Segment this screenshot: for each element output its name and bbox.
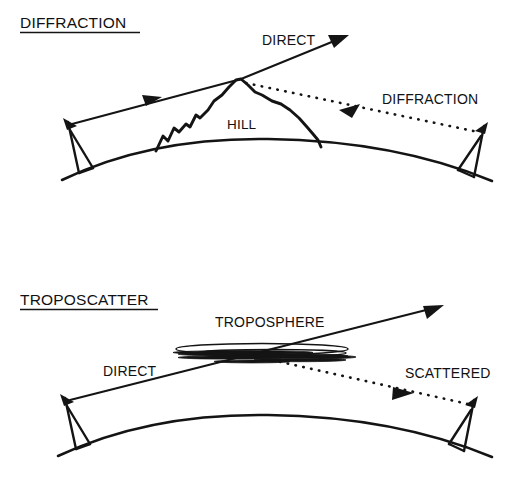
radio-propagation-diagram: DIFFRACTION HILL <box>0 0 509 482</box>
troposphere-layer <box>173 344 356 363</box>
antenna-left-troposcatter <box>60 394 90 449</box>
earth-curve-diffraction <box>62 139 492 181</box>
antenna-left-diffraction <box>63 118 93 173</box>
panel-diffraction: DIFFRACTION HILL <box>20 14 492 181</box>
panel-title-troposcatter: TROPOSCATTER <box>20 291 149 308</box>
troposphere-label: TROPOSPHERE <box>215 314 325 330</box>
direct-ray-diffraction <box>72 35 349 124</box>
earth-curve-troposcatter <box>58 415 492 457</box>
hill-label: HILL <box>227 117 257 132</box>
panel-title-diffraction: DIFFRACTION <box>20 14 126 31</box>
scattered-ray-label: SCATTERED <box>405 365 491 381</box>
direct-ray-label-troposcatter: DIRECT <box>103 363 157 379</box>
panel-troposcatter: TROPOSCATTER <box>20 291 492 457</box>
diffraction-ray-label: DIFFRACTION <box>382 91 478 107</box>
direct-ray-label-diffraction: DIRECT <box>262 32 316 48</box>
